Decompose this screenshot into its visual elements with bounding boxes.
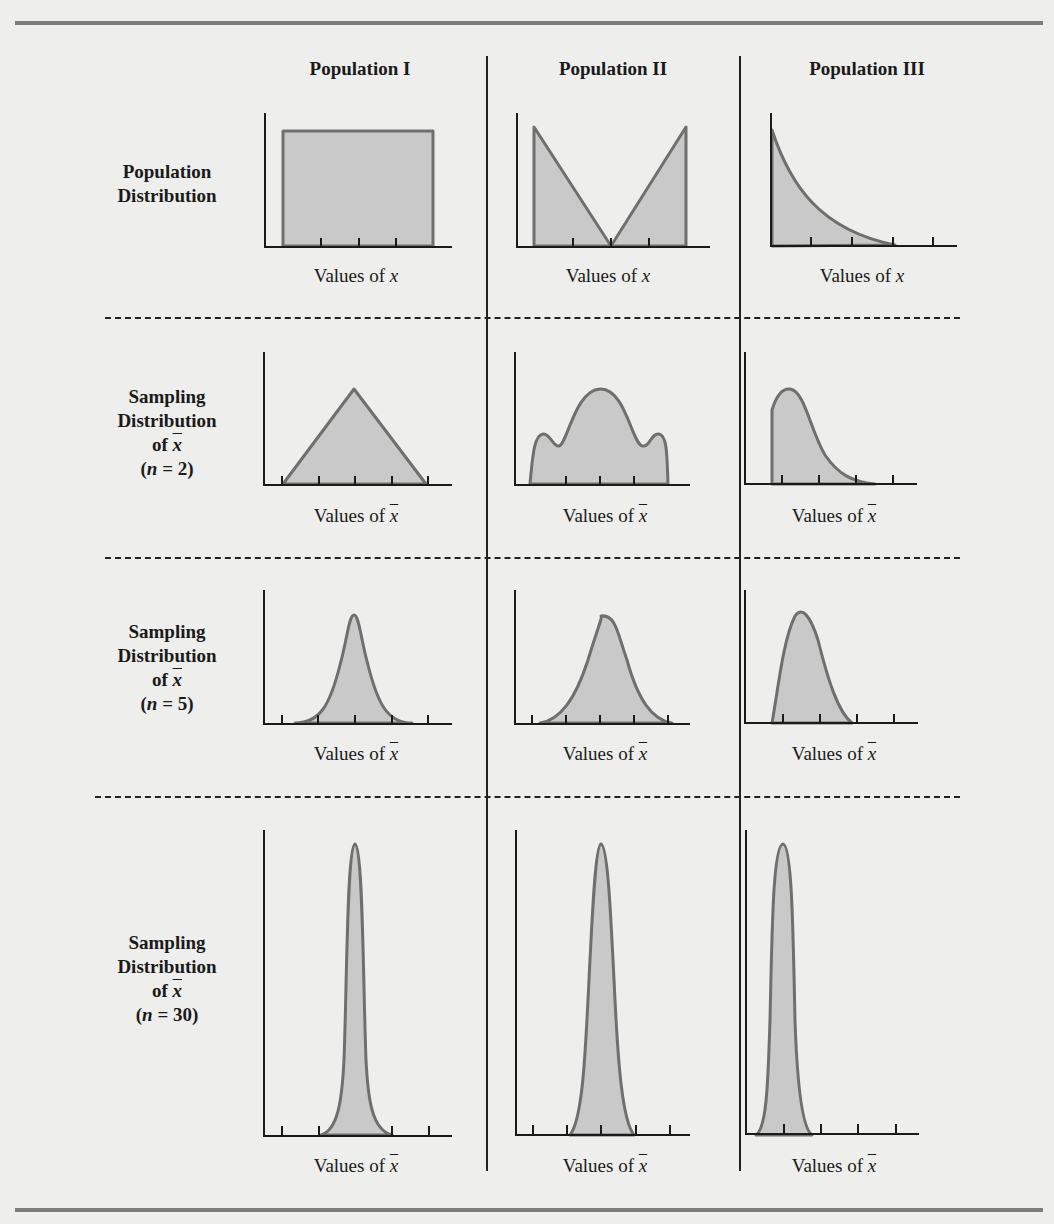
axis-label-pop2-r3: Values of x: [505, 743, 705, 765]
plot-pop3-n2-skewed: [772, 389, 875, 484]
axis-label-pop3-r3: Values of x: [734, 743, 934, 765]
axis-label-pop3-r2: Values of x: [734, 505, 934, 527]
axis-label-prefix: Values of: [314, 505, 390, 526]
axis-label-pop1-r4: Values of x: [256, 1155, 456, 1177]
axis-label-pop2-r4: Values of x: [505, 1155, 705, 1177]
x-bar-symbol: x: [868, 1155, 876, 1176]
axis-label-prefix: Values of: [314, 265, 390, 286]
axis-label-pop2-r2: Values of x: [505, 505, 705, 527]
axis-label-prefix: Values of: [792, 743, 868, 764]
plot-pop1-population-uniform: [283, 131, 433, 246]
x-symbol: x: [896, 265, 904, 286]
axis-label-prefix: Values of: [314, 1155, 390, 1176]
x-bar-symbol: x: [868, 505, 876, 526]
plot-pop1-n5-normal: [295, 615, 412, 723]
x-bar-symbol: x: [390, 1155, 398, 1176]
axis-label-pop3-r1: Values of x: [762, 265, 962, 287]
x-bar-symbol: x: [639, 743, 647, 764]
ticks-pop2-r4: [533, 1125, 670, 1135]
plot-pop2-n2-trimodal: [530, 389, 668, 484]
plot-pop3-n5-skewed: [772, 612, 852, 723]
x-symbol: x: [642, 265, 650, 286]
axis-label-pop1-r1: Values of x: [256, 265, 456, 287]
axis-label-pop1-r2: Values of x: [256, 505, 456, 527]
axis-label-prefix: Values of: [792, 1155, 868, 1176]
plot-pop1-n30-narrow: [321, 844, 392, 1135]
axis-label-prefix: Values of: [792, 505, 868, 526]
axis-label-pop2-r1: Values of x: [508, 265, 708, 287]
x-bar-symbol: x: [639, 1155, 647, 1176]
plot-pop3-population-exponential: [772, 130, 895, 246]
axis-label-pop1-r3: Values of x: [256, 743, 456, 765]
x-symbol: x: [390, 265, 398, 286]
x-bar-symbol: x: [390, 505, 398, 526]
distribution-plots: [0, 0, 1054, 1224]
axis-label-prefix: Values of: [563, 505, 639, 526]
plot-pop3-n30-narrow: [756, 844, 812, 1135]
axis-label-prefix: Values of: [820, 265, 896, 286]
plot-pop2-population-v: [534, 127, 686, 246]
axis-label-pop3-r4: Values of x: [734, 1155, 934, 1177]
x-bar-symbol: x: [390, 743, 398, 764]
axis-label-prefix: Values of: [563, 1155, 639, 1176]
plot-pop2-n30-narrow: [570, 844, 634, 1135]
plot-pop1-n2-triangular: [283, 389, 426, 484]
x-bar-symbol: x: [639, 505, 647, 526]
axis-label-prefix: Values of: [563, 743, 639, 764]
plot-pop2-n5-normal: [540, 616, 672, 723]
x-bar-symbol: x: [868, 743, 876, 764]
axis-label-prefix: Values of: [314, 743, 390, 764]
axis-label-prefix: Values of: [566, 265, 642, 286]
